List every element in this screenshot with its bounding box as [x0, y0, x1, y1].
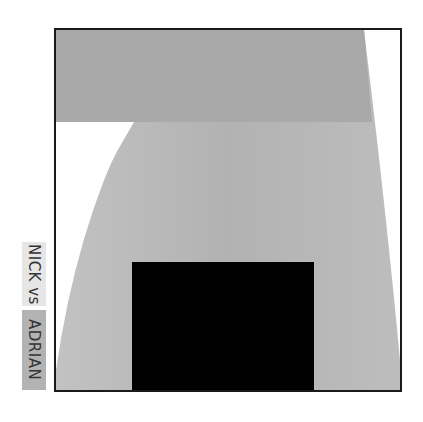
- label-second-text: ADRIAN: [25, 319, 43, 380]
- image-frame: [54, 28, 402, 392]
- top-band: [56, 30, 372, 122]
- label-first-text: NICK vs: [25, 244, 43, 305]
- abstract-shape-canvas: [56, 30, 400, 390]
- black-block: [132, 262, 314, 390]
- label-first-name: NICK vs: [22, 242, 46, 306]
- label-second-name: ADRIAN: [22, 310, 46, 390]
